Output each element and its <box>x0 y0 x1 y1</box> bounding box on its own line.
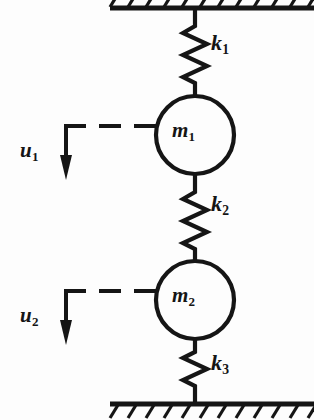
u1-arrow-shaft <box>66 126 68 160</box>
displacement-u1-label-subscript: 1 <box>32 149 39 164</box>
mass-m2-label-subscript: 2 <box>189 294 196 309</box>
u2-arrow-shaft <box>66 291 68 325</box>
displacement-u1-label-base: u <box>20 138 32 162</box>
displacement-u2-label-base: u <box>20 303 32 327</box>
spring-k3-label-base: k <box>211 350 222 375</box>
mass-m1-circle <box>156 96 234 174</box>
spring-k2-label-subscript: 2 <box>222 203 229 218</box>
displacement-u2-label: u2 <box>20 305 38 326</box>
spring-k3-label: k3 <box>211 352 229 374</box>
spring-k1-label-base: k <box>211 30 222 55</box>
u1-arrow-head <box>60 155 72 180</box>
displacement-u1 <box>60 126 156 180</box>
spring-k1 <box>183 8 207 96</box>
top-support <box>110 0 314 8</box>
spring-k1-label: k1 <box>211 32 229 54</box>
mass-m2-label-base: m <box>172 283 188 307</box>
displacement-u2 <box>60 291 156 345</box>
spring-mass-diagram: k1 k2 k3 m1 m2 u1 u2 <box>0 0 314 420</box>
displacement-u2-label-subscript: 2 <box>32 314 39 329</box>
mass-m1-label-base: m <box>172 118 188 142</box>
spring-k2-label: k2 <box>211 193 229 215</box>
spring-k2 <box>183 174 207 262</box>
spring-k3 <box>183 339 207 404</box>
diagram-canvas <box>0 0 314 420</box>
mass-m1-label-subscript: 1 <box>189 129 196 144</box>
spring-k3-label-subscript: 3 <box>222 362 229 377</box>
u2-arrow-head <box>60 320 72 345</box>
mass-m2-label: m2 <box>172 285 195 306</box>
bottom-support-hatching <box>110 405 314 418</box>
spring-k2-label-base: k <box>211 191 222 216</box>
mass-m2-circle <box>156 261 234 339</box>
displacement-u1-label: u1 <box>20 140 38 161</box>
spring-k1-label-subscript: 1 <box>222 42 229 57</box>
mass-m1-label: m1 <box>172 120 195 141</box>
bottom-support <box>110 404 314 418</box>
